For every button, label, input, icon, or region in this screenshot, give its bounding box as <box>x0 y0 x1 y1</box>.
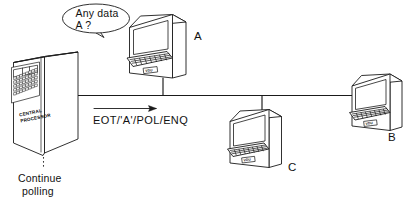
key-cell[interactable] <box>14 84 17 87</box>
speech-bubble: Any data A ? <box>63 4 130 38</box>
diagram-canvas: CENTRAL PROCESSOR Any data A ? <box>0 0 409 204</box>
terminal-b[interactable]: VDU B <box>350 74 403 143</box>
key-cell[interactable] <box>23 77 26 80</box>
continue-polling-note: Continue polling <box>18 172 62 197</box>
speech-bubble-line2: A ? <box>76 19 92 31</box>
terminal-c[interactable]: VDU C <box>228 110 297 174</box>
key-cell[interactable] <box>17 91 20 94</box>
key-cell[interactable] <box>17 75 20 78</box>
key-cell[interactable] <box>26 83 29 86</box>
terminal-c-label: C <box>288 161 297 173</box>
key-cell[interactable] <box>23 85 26 88</box>
operator-control-panel[interactable] <box>12 62 40 103</box>
key-cell[interactable] <box>29 71 32 74</box>
key-cell[interactable] <box>20 78 23 81</box>
key-cell[interactable] <box>20 86 23 89</box>
central-processor: CENTRAL PROCESSOR <box>12 52 79 156</box>
key-cell[interactable] <box>29 78 32 81</box>
key-cell[interactable] <box>35 72 38 75</box>
terminal-a[interactable]: VDU A <box>127 15 202 79</box>
terminal-b-side-panel <box>390 74 402 131</box>
protocol-arrow-head <box>149 106 157 112</box>
key-cell[interactable] <box>32 73 35 76</box>
key-cell[interactable] <box>32 77 35 80</box>
speech-bubble-line1: Any data <box>76 7 119 19</box>
cpu-side-panel <box>45 52 79 153</box>
key-cell[interactable] <box>29 86 32 89</box>
key-cell[interactable] <box>26 87 29 90</box>
key-cell[interactable] <box>29 82 32 85</box>
key-cell[interactable] <box>20 82 23 85</box>
terminal-a-side-panel <box>173 15 187 79</box>
key-cell[interactable] <box>35 84 38 87</box>
key-cell[interactable] <box>20 74 23 77</box>
key-cell[interactable] <box>35 68 38 71</box>
key-cell[interactable] <box>14 92 17 95</box>
key-cell[interactable] <box>26 80 29 83</box>
polling-network-diagram: CENTRAL PROCESSOR Any data A ? <box>0 0 409 204</box>
continue-polling-line1: Continue <box>18 172 62 184</box>
key-cell[interactable] <box>14 77 17 80</box>
key-cell[interactable] <box>29 75 32 78</box>
key-cell[interactable] <box>26 72 29 75</box>
key-cell[interactable] <box>17 83 20 86</box>
continue-polling-line2: polling <box>22 185 54 197</box>
key-cell[interactable] <box>14 80 17 83</box>
key-cell[interactable] <box>23 73 26 76</box>
key-cell[interactable] <box>17 87 20 90</box>
terminal-c-side-panel <box>269 110 282 168</box>
protocol-label: EOT/'A'/POL/ENQ <box>93 114 188 126</box>
terminal-b-badge: VDU <box>364 120 378 127</box>
key-cell[interactable] <box>35 80 38 83</box>
key-cell[interactable] <box>23 89 26 92</box>
key-cell[interactable] <box>17 79 20 82</box>
key-cell[interactable] <box>32 81 35 84</box>
terminal-c-badge: VDU <box>242 156 256 163</box>
key-cell[interactable] <box>14 88 17 91</box>
key-cell[interactable] <box>32 69 35 72</box>
key-cell[interactable] <box>26 76 29 79</box>
terminal-b-label: B <box>388 131 396 143</box>
key-cell[interactable] <box>20 90 23 93</box>
terminal-a-label: A <box>194 30 202 42</box>
key-cell[interactable] <box>32 85 35 88</box>
key-cell[interactable] <box>35 76 38 79</box>
key-cell[interactable] <box>23 81 26 84</box>
protocol-annotation: EOT/'A'/POL/ENQ <box>93 106 188 126</box>
network-bus-group <box>48 78 352 110</box>
